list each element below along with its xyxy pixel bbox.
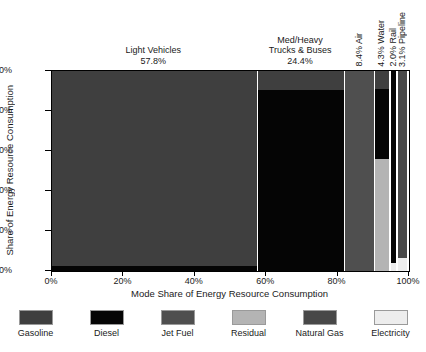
y-axis-tick-mark xyxy=(45,190,51,191)
legend-item[interactable]: Residual xyxy=(216,310,282,338)
legend-label: Gasoline xyxy=(18,328,54,338)
plot-area xyxy=(51,70,410,272)
legend-item[interactable]: Jet Fuel xyxy=(145,310,211,338)
column-label-text: 8.4% Air xyxy=(354,33,364,67)
column-share-label: 57.8% xyxy=(126,56,182,67)
mosaic-segment xyxy=(52,71,257,266)
x-axis-title: Mode Share of Energy Resource Consumptio… xyxy=(51,288,408,299)
legend-swatch xyxy=(374,310,408,325)
legend-item[interactable]: Gasoline xyxy=(3,310,69,338)
mosaic-segment xyxy=(391,263,397,271)
mosaic-column xyxy=(258,71,344,271)
x-axis-tick-label: 40% xyxy=(185,276,203,286)
x-axis-tick-mark xyxy=(122,271,123,276)
column-label: 3.1% Pipeline xyxy=(395,3,409,67)
mosaic-segment xyxy=(398,258,407,271)
column-label: Light Vehicles57.8% xyxy=(126,45,182,66)
x-axis-tick-label: 80% xyxy=(328,276,346,286)
legend-label: Jet Fuel xyxy=(161,328,193,338)
legend-swatch xyxy=(19,310,53,325)
mosaic-column xyxy=(52,71,257,271)
column-label: 8.4% Air xyxy=(352,3,366,67)
mosaic-segment xyxy=(345,71,373,271)
x-axis-tick-mark xyxy=(337,271,338,276)
mosaic-segment xyxy=(52,266,257,271)
column-share-label: 24.4% xyxy=(269,56,332,67)
legend-swatch xyxy=(232,310,266,325)
legend-label: Natural Gas xyxy=(295,328,343,338)
column-label-line: Trucks & Buses xyxy=(269,45,332,56)
x-axis-tick-label: 0% xyxy=(44,276,57,286)
mosaic-column xyxy=(398,71,407,271)
x-axis-tick-mark xyxy=(265,271,266,276)
column-label-text: 3.1% Pipeline xyxy=(397,12,407,67)
column-label-line: Light Vehicles xyxy=(126,45,182,56)
legend-item[interactable]: Diesel xyxy=(74,310,140,338)
mosaic-segment xyxy=(375,159,389,271)
legend-swatch xyxy=(303,310,337,325)
y-axis-tick-mark xyxy=(45,70,51,71)
legend-item[interactable]: Natural Gas xyxy=(287,310,353,338)
legend-swatch xyxy=(90,310,124,325)
mosaic-segment xyxy=(258,71,344,90)
legend-swatch xyxy=(161,310,195,325)
mosaic-segment xyxy=(375,89,389,159)
mosaic-segment xyxy=(391,71,397,263)
mosaic-segment xyxy=(375,71,389,89)
x-axis-tick-mark xyxy=(51,271,52,276)
y-axis-tick-mark xyxy=(45,150,51,151)
x-axis-tick-label: 60% xyxy=(256,276,274,286)
legend-item[interactable]: Electricity xyxy=(358,310,424,338)
mosaic-column xyxy=(345,71,373,271)
x-axis-tick-label: 100% xyxy=(396,276,419,286)
legend-label: Diesel xyxy=(94,328,119,338)
mosaic-segment xyxy=(258,90,344,271)
mosaic-chart: Light Vehicles57.8%Med/HeavyTrucks & Bus… xyxy=(0,0,426,352)
x-axis-tick-mark xyxy=(194,271,195,276)
column-label: Med/HeavyTrucks & Buses24.4% xyxy=(269,35,332,67)
x-axis-tick-label: 20% xyxy=(113,276,131,286)
y-axis-tick-mark xyxy=(45,230,51,231)
y-axis-tick-mark xyxy=(45,110,51,111)
y-axis-title-text: Share of Energy Resource Consumption xyxy=(4,85,15,256)
mosaic-column xyxy=(375,71,389,271)
y-axis-title: Share of Energy Resource Consumption xyxy=(2,70,16,270)
mosaic-segment xyxy=(398,71,407,258)
mosaic-column xyxy=(391,71,397,271)
legend-label: Residual xyxy=(231,328,266,338)
legend: GasolineDieselJet FuelResidualNatural Ga… xyxy=(0,310,426,350)
x-axis-tick-mark xyxy=(408,271,409,276)
column-label-line: Med/Heavy xyxy=(269,35,332,46)
legend-label: Electricity xyxy=(371,328,410,338)
